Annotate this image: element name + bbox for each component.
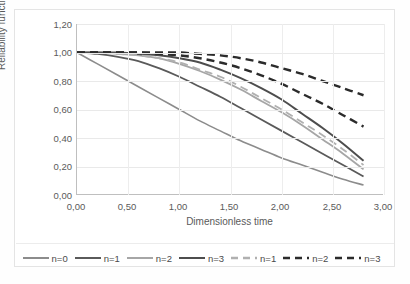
legend-label: n=0: [52, 253, 68, 264]
legend-item-1[interactable]: n=1: [75, 253, 120, 264]
legend-swatch-icon: [179, 253, 205, 263]
legend-swatch-icon: [75, 253, 101, 263]
series-line-n=0: [77, 53, 364, 186]
plot-area: [76, 24, 383, 195]
y-axis-title: Reliability function: [0, 0, 7, 70]
gridline-vertical: [333, 24, 334, 195]
legend-swatch-icon: [231, 253, 257, 263]
series-line-n=3: [77, 52, 364, 160]
series-line-n=1: [77, 53, 364, 177]
legend-item-4[interactable]: n=1: [231, 253, 276, 264]
gridline-vertical: [128, 24, 129, 195]
legend-item-6[interactable]: n=3: [335, 253, 380, 264]
legend-swatch-icon: [127, 253, 153, 263]
legend-divider: [16, 243, 394, 244]
legend-swatch-icon: [23, 253, 49, 263]
gridline-vertical: [231, 24, 232, 195]
chart-legend: n=0n=1n=2n=3n=1n=2n=3: [16, 248, 394, 268]
series-line-n=3-dashed: [77, 52, 364, 95]
gridline-vertical: [282, 24, 283, 195]
legend-item-3[interactable]: n=3: [179, 253, 224, 264]
legend-label: n=3: [364, 253, 380, 264]
legend-item-2[interactable]: n=2: [127, 253, 172, 264]
legend-swatch-icon: [335, 253, 361, 263]
legend-label: n=1: [260, 253, 276, 264]
gridline-vertical: [384, 24, 385, 195]
legend-swatch-icon: [283, 253, 309, 263]
legend-label: n=2: [156, 253, 172, 264]
legend-item-0[interactable]: n=0: [23, 253, 68, 264]
legend-label: n=1: [104, 253, 120, 264]
reliability-chart-figure: Reliability function 1,20 1,00 0,80 0,60…: [0, 0, 410, 284]
gridline-vertical: [179, 24, 180, 195]
legend-label: n=2: [312, 253, 328, 264]
legend-label: n=3: [208, 253, 224, 264]
x-axis-title: Dimensionless time: [76, 216, 383, 227]
series-line-n=2-dashed: [77, 52, 364, 126]
legend-item-5[interactable]: n=2: [283, 253, 328, 264]
